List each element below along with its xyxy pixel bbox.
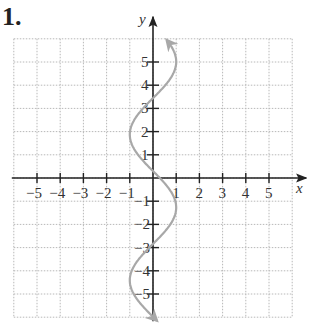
x-tick-label: −4	[49, 185, 65, 201]
x-tick-label: −1	[119, 185, 135, 201]
x-tick-label: 5	[265, 185, 273, 201]
x-tick-label: −2	[96, 185, 112, 201]
x-tick-label: 3	[219, 185, 227, 201]
y-tick-label: −3	[134, 240, 150, 256]
y-axis-label: y	[137, 11, 146, 27]
y-tick-label: 2	[141, 124, 149, 140]
x-tick-label: 1	[172, 185, 180, 201]
x-tick-label: −3	[72, 185, 88, 201]
y-tick-label: 5	[141, 54, 149, 70]
y-tick-label: −2	[134, 216, 150, 232]
y-tick-label: −1	[134, 193, 150, 209]
y-tick-label: 4	[141, 77, 149, 93]
graph: −5−4−3−2−112345−5−4−3−2−112345 x y	[0, 0, 309, 325]
x-tick-label: −5	[26, 185, 42, 201]
x-axis-label: x	[295, 180, 303, 196]
y-tick-label: −4	[134, 263, 150, 279]
x-tick-label: 2	[195, 185, 203, 201]
x-tick-label: 4	[242, 185, 250, 201]
